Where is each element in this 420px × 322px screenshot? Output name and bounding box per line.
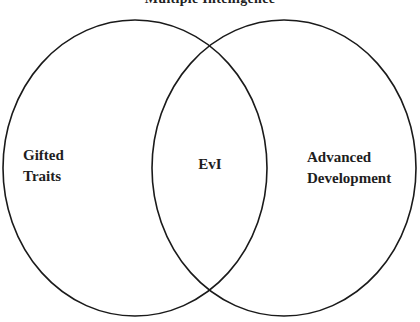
- right-set-label-line-1: Advanced: [307, 147, 391, 168]
- diagram-title: Multiple Intelligence: [0, 0, 420, 7]
- left-set-label-line-2: Traits: [23, 166, 64, 187]
- right-set-label-line-2: Development: [307, 168, 391, 189]
- left-set-label: Gifted Traits: [23, 145, 64, 187]
- intersection-label-text: EvI: [186, 154, 234, 175]
- venn-diagram: Multiple Intelligence Gifted Traits EvI …: [0, 0, 420, 322]
- left-set-label-line-1: Gifted: [23, 145, 64, 166]
- intersection-label: EvI: [186, 154, 234, 175]
- right-set-label: Advanced Development: [307, 147, 391, 189]
